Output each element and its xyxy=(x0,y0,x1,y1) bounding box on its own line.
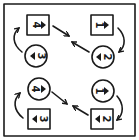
curved-arrow xyxy=(117,96,122,120)
digit-label: 2 xyxy=(101,116,112,123)
triangle-right-icon xyxy=(41,21,46,29)
digit-label: 3 xyxy=(36,53,47,60)
cell-bottom-left: 4 3 xyxy=(15,78,50,129)
digit-label: 4 xyxy=(30,86,41,93)
curved-arrow xyxy=(15,93,23,118)
triangle-left-icon xyxy=(96,53,101,61)
triangle-left-icon xyxy=(95,115,100,123)
cell-bottom-right: 1 2 xyxy=(91,80,122,129)
triangle-right-icon xyxy=(104,21,109,29)
cell-top-right: 1 2 xyxy=(91,15,124,68)
digit-label: 4 xyxy=(31,22,42,29)
digit-label: 3 xyxy=(38,116,49,123)
triangle-left-icon xyxy=(32,115,37,123)
curved-arrow xyxy=(14,28,22,52)
outer-frame xyxy=(4,4,135,136)
curved-arrow xyxy=(118,28,124,52)
arrow-to-center xyxy=(52,92,67,104)
arrow-to-center xyxy=(72,42,89,52)
cell-top-left: 4 3 xyxy=(14,15,49,67)
digit-label: 1 xyxy=(94,88,105,95)
digit-label: 1 xyxy=(94,22,105,29)
triangle-right-icon xyxy=(104,87,109,95)
arrow-to-center xyxy=(73,106,88,115)
triangle-left-icon xyxy=(30,52,35,60)
digit-label: 2 xyxy=(102,54,113,61)
diagram-canvas: 4 3 1 2 4 3 1 2 xyxy=(0,0,139,140)
triangle-right-icon xyxy=(41,85,46,93)
arrow-to-center xyxy=(53,26,69,36)
